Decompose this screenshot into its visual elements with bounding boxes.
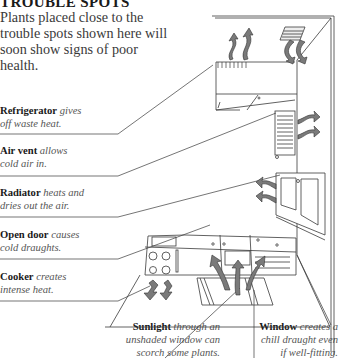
cold-arrow-icon	[285, 40, 295, 64]
cooker-heat-arrow-icon	[144, 280, 158, 300]
kitchen-illustration	[0, 0, 339, 359]
refrigerator	[216, 62, 297, 110]
heat-arrow-icon	[243, 28, 253, 60]
radiator	[276, 173, 325, 240]
heat-arrow-icon	[229, 33, 238, 60]
cooker-heat-arrow-icon	[160, 280, 172, 300]
draught-arrow-icon	[298, 126, 320, 139]
draught-arrow-icon	[298, 111, 320, 124]
air-vent	[275, 111, 295, 159]
cold-arrow-icon	[296, 40, 307, 64]
warm-arrow-icon	[256, 191, 276, 203]
ceiling-vent	[280, 27, 305, 40]
